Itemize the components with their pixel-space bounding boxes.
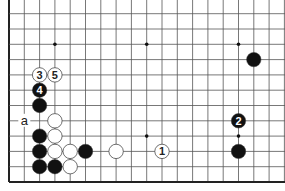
star-point-icon — [237, 134, 241, 138]
stone-icon — [32, 144, 46, 158]
move-number: 1 — [159, 145, 165, 157]
star-point-icon — [145, 43, 149, 47]
white-stone-move-5: 5 — [48, 68, 62, 82]
stone-icon — [48, 129, 62, 143]
stone-icon — [48, 144, 62, 158]
black-stone — [78, 144, 92, 158]
star-point-icon — [237, 43, 241, 47]
black-stone-move-4: 4 — [32, 83, 46, 97]
white-stone — [48, 129, 62, 143]
black-stone — [32, 129, 46, 143]
white-stone — [63, 144, 77, 158]
stone-icon — [231, 144, 245, 158]
black-stone — [231, 144, 245, 158]
move-number: 2 — [235, 115, 241, 127]
star-point-icon — [145, 134, 149, 138]
move-number: 4 — [37, 84, 44, 96]
stone-icon — [78, 144, 92, 158]
white-stone-move-3: 3 — [32, 68, 46, 82]
go-board-diagram: a 35412 — [0, 0, 285, 191]
stone-icon — [32, 98, 46, 112]
point-label-a: a — [21, 113, 29, 128]
white-stone — [48, 144, 62, 158]
black-stone — [32, 144, 46, 158]
stone-icon — [32, 129, 46, 143]
black-stone — [48, 160, 62, 174]
white-stone — [48, 114, 62, 128]
black-stone — [32, 160, 46, 174]
board-markers: a — [18, 113, 30, 128]
move-number: 5 — [52, 69, 58, 81]
white-stone — [109, 144, 123, 158]
stone-icon — [48, 160, 62, 174]
white-stone-move-1: 1 — [155, 144, 169, 158]
star-point-icon — [53, 43, 57, 47]
black-stone — [247, 52, 261, 66]
stone-icon — [247, 52, 261, 66]
stone-icon — [63, 144, 77, 158]
move-number: 3 — [37, 69, 43, 81]
stone-icon — [63, 160, 77, 174]
black-stone-move-2: 2 — [231, 114, 245, 128]
stone-icon — [109, 144, 123, 158]
white-stone — [63, 160, 77, 174]
stone-icon — [32, 160, 46, 174]
stone-icon — [48, 114, 62, 128]
black-stone — [32, 98, 46, 112]
